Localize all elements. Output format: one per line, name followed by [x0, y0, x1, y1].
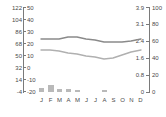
axis-tick-right-mm-3: 40 [152, 55, 166, 61]
climate-chart: 122 104 86 68 50 32 14 -4 50 40 30 20 10… [0, 0, 166, 117]
left-tickmark-1 [23, 19, 26, 20]
left-tickmark-4 [23, 55, 26, 56]
axis-tick-left-c-4: 10 [27, 53, 43, 59]
right-tickmark-3 [146, 58, 149, 59]
x-tick-month-3: A [64, 97, 73, 103]
left-tickmark-7 [23, 91, 26, 92]
x-tick-month-9: O [118, 97, 127, 103]
right-tickmark-4 [146, 75, 149, 76]
x-tick-month-10: N [127, 97, 136, 103]
x-tick-month-0: J [37, 97, 46, 103]
axis-tick-right-in-3: 1.6 [126, 55, 144, 61]
axis-tick-left-c-0: 50 [27, 5, 43, 11]
axis-tick-right-mm-4: 20 [152, 72, 166, 78]
axis-tick-left-f-1: 104 [2, 17, 22, 23]
x-tick-month-4: M [73, 97, 82, 103]
x-tick-month-1: F [46, 97, 55, 103]
axis-tick-left-c-6: -10 [27, 77, 43, 83]
axis-tick-right-mm-1: 80 [152, 21, 166, 27]
precip-bar-aug [102, 90, 107, 92]
left-tickmark-5 [23, 67, 26, 68]
right-tickmark-2 [146, 41, 149, 42]
axis-tick-right-mm-2: 60 [152, 38, 166, 44]
axis-tick-left-c-2: 30 [27, 29, 43, 35]
axis-tick-left-f-4: 50 [2, 53, 22, 59]
precip-bar-feb [48, 85, 54, 92]
axis-tick-left-c-1: 40 [27, 17, 43, 23]
left-tickmark-0 [23, 7, 26, 8]
axis-tick-left-f-6: 14 [2, 77, 22, 83]
left-tickmark-3 [23, 43, 26, 44]
right-tickmark-0 [146, 7, 149, 8]
axis-tick-right-in-0: 3.9 [126, 5, 144, 11]
precip-bar-jan [39, 88, 44, 92]
axis-tick-left-c-5: 0 [27, 65, 43, 71]
axis-tick-left-f-0: 122 [2, 5, 22, 11]
axis-tick-left-f-2: 86 [2, 29, 22, 35]
axis-tick-right-in-5: 0 [126, 89, 144, 95]
x-tick-month-8: S [109, 97, 118, 103]
x-tick-month-11: D [136, 97, 145, 103]
axis-tick-right-mm-5: 0 [152, 89, 166, 95]
right-tickmark-1 [146, 24, 149, 25]
x-tick-month-7: A [100, 97, 109, 103]
left-tickmark-6 [23, 79, 26, 80]
axis-tick-right-mm-0: 100 [152, 5, 166, 11]
axis-tick-left-c-3: 20 [27, 41, 43, 47]
axis-tick-right-in-2: 2.4 [126, 38, 144, 44]
right-tickmark-5 [146, 92, 149, 93]
left-tickmark-2 [23, 31, 26, 32]
precip-bar-mar [57, 89, 62, 92]
x-tick-month-6: J [91, 97, 100, 103]
axis-tick-left-f-7: -4 [2, 89, 22, 95]
axis-tick-left-f-5: 32 [2, 65, 22, 71]
x-tick-month-5: J [82, 97, 91, 103]
precip-bar-may [75, 90, 80, 92]
x-tick-month-2: M [55, 97, 64, 103]
precip-bar-apr [66, 89, 71, 92]
right-axis-spine [149, 7, 150, 93]
axis-tick-left-f-3: 68 [2, 41, 22, 47]
axis-tick-right-in-4: 0.8 [126, 72, 144, 78]
axis-tick-right-in-1: 3.1 [126, 21, 144, 27]
